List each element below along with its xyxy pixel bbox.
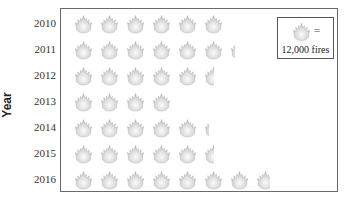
flame-icon xyxy=(152,66,171,86)
flame-icon xyxy=(126,14,145,34)
flame-icon xyxy=(204,66,214,86)
flame-icon xyxy=(74,170,93,190)
year-label: 2010 xyxy=(24,17,56,29)
flame-icon xyxy=(204,40,223,60)
legend-equals: = xyxy=(314,24,320,36)
flame-icon xyxy=(100,66,119,86)
year-label: 2016 xyxy=(24,173,56,185)
flame-icon xyxy=(152,144,171,164)
flame-icon xyxy=(126,118,145,138)
flame-icon xyxy=(126,40,145,60)
flame-icon xyxy=(152,170,171,190)
flame-icon xyxy=(74,14,93,34)
flame-icon xyxy=(152,40,171,60)
flame-icon xyxy=(178,40,197,60)
flame-icon xyxy=(100,14,119,34)
flame-icon xyxy=(256,170,270,190)
flame-icon xyxy=(74,66,93,86)
flame-icon xyxy=(292,22,311,42)
flame-icon xyxy=(126,66,145,86)
flame-icon xyxy=(74,118,93,138)
flame-icon xyxy=(230,170,249,190)
flame-icon xyxy=(74,144,93,164)
flame-icon xyxy=(74,40,93,60)
flame-icon xyxy=(204,144,214,164)
flame-icon xyxy=(100,92,119,112)
flame-icon xyxy=(204,170,223,190)
year-label: 2014 xyxy=(24,121,56,133)
flame-icon xyxy=(152,14,171,34)
flame-icon xyxy=(178,14,197,34)
flame-icon xyxy=(100,40,119,60)
flame-icon xyxy=(204,118,209,138)
flame-icon xyxy=(100,118,119,138)
flame-icon xyxy=(100,144,119,164)
flame-icon xyxy=(152,118,171,138)
flame-icon xyxy=(126,144,145,164)
legend: = 12,000 fires xyxy=(277,17,334,59)
year-label: 2013 xyxy=(24,95,56,107)
year-label: 2012 xyxy=(24,69,56,81)
flame-icon xyxy=(126,170,145,190)
year-label: 2011 xyxy=(24,43,56,55)
flame-icon xyxy=(178,66,197,86)
flame-icon xyxy=(178,118,197,138)
flame-icon xyxy=(74,92,93,112)
flame-icon xyxy=(152,92,171,112)
flame-icon xyxy=(126,92,145,112)
flame-icon xyxy=(100,170,119,190)
legend-text: 12,000 fires xyxy=(278,44,333,55)
flame-icon xyxy=(178,170,197,190)
flame-icon xyxy=(178,144,197,164)
year-label: 2015 xyxy=(24,147,56,159)
flame-icon xyxy=(230,40,235,60)
flame-icon xyxy=(204,14,223,34)
